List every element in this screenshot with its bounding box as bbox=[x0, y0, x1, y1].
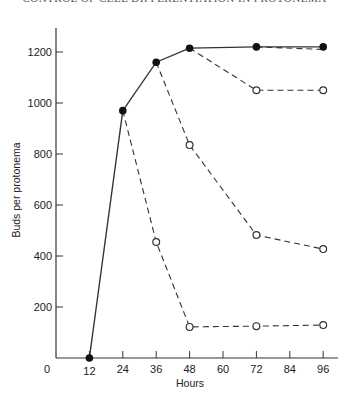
x-tick-label: 60 bbox=[217, 363, 229, 375]
open-circle-marker bbox=[320, 322, 327, 329]
x-tick-label: 72 bbox=[250, 363, 262, 375]
filled-circle-marker bbox=[119, 107, 127, 115]
y-tick-label: 1000 bbox=[28, 97, 52, 109]
y-tick-label: 800 bbox=[34, 148, 52, 160]
open-circle-marker bbox=[253, 87, 260, 94]
filled-circle-marker bbox=[86, 354, 94, 362]
y-tick-label: 400 bbox=[34, 250, 52, 262]
y-tick-label: 1200 bbox=[28, 46, 52, 58]
origin-label: 0 bbox=[44, 363, 50, 375]
x-axis-title: Hours bbox=[176, 377, 204, 389]
x-tick-label: 48 bbox=[183, 363, 195, 375]
series-line bbox=[89, 47, 323, 358]
open-circle-marker bbox=[186, 142, 193, 149]
filled-circle-marker bbox=[152, 58, 160, 66]
filled-circle-marker bbox=[253, 43, 261, 51]
open-circle-marker bbox=[253, 323, 260, 330]
y-tick-label: 200 bbox=[34, 301, 52, 313]
series-line bbox=[190, 48, 324, 90]
open-circle-marker bbox=[320, 246, 327, 253]
y-tick-label: 600 bbox=[34, 199, 52, 211]
x-tick-label: 84 bbox=[284, 363, 296, 375]
open-circle-marker bbox=[253, 232, 260, 239]
line-chart: 2004006008001000120001224364860728496 Ho… bbox=[0, 0, 349, 401]
series-line bbox=[123, 111, 323, 327]
filled-circle-marker bbox=[186, 44, 194, 52]
series-lines bbox=[89, 47, 323, 358]
x-tick-label: 36 bbox=[150, 363, 162, 375]
x-tick-label: 96 bbox=[317, 363, 329, 375]
open-circle-marker bbox=[320, 87, 327, 94]
x-tick-label: 12 bbox=[83, 365, 95, 377]
x-tick-label: 24 bbox=[117, 363, 129, 375]
y-axis-title: Buds per protonema bbox=[10, 142, 22, 237]
axes: 2004006008001000120001224364860728496 bbox=[28, 28, 338, 377]
filled-circle-marker bbox=[319, 43, 327, 51]
open-circle-marker bbox=[186, 323, 193, 330]
open-circle-marker bbox=[153, 239, 160, 246]
data-markers bbox=[86, 43, 327, 362]
